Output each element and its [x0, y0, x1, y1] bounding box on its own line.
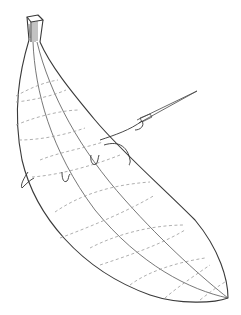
stitch-loops — [62, 155, 99, 182]
dashed-contours — [16, 80, 225, 300]
needle — [137, 91, 197, 123]
banana-illustration — [0, 0, 241, 315]
banana-stem — [27, 15, 43, 42]
banana-drawing — [0, 0, 241, 315]
thread — [21, 121, 142, 188]
ridge-lines — [33, 42, 228, 298]
